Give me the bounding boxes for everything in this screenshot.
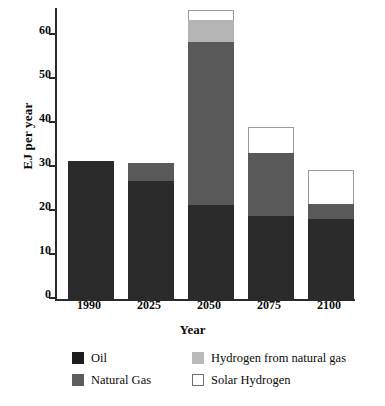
bar-segment-gas — [248, 153, 294, 216]
legend-label: Hydrogen from natural gas — [211, 352, 346, 365]
y-tick-label: 0 — [45, 288, 51, 300]
legend-label: Solar Hydrogen — [211, 374, 291, 387]
y-tick-label: 30 — [39, 156, 51, 168]
bar-segment-oil — [188, 205, 234, 299]
legend-swatch-h2gas — [192, 352, 204, 364]
y-tick-label: 60 — [39, 24, 51, 36]
legend-label: Oil — [91, 352, 107, 365]
legend-swatch-oil — [72, 352, 84, 364]
y-tick-label: 50 — [39, 68, 51, 80]
legend-item: Hydrogen from natural gas — [192, 352, 372, 365]
y-tick-label: 40 — [39, 112, 51, 124]
bar-segment-solar — [188, 10, 234, 20]
x-tick-label: 2050 — [180, 298, 238, 313]
plot-area: 0102030405060 — [55, 8, 355, 300]
bar-segment-h2gas — [188, 20, 234, 42]
y-tick-label: 20 — [39, 200, 51, 212]
bar-segment-gas — [188, 42, 234, 205]
legend-swatch-gas — [72, 374, 84, 386]
chart-legend: OilHydrogen from natural gasNatural GasS… — [72, 352, 372, 386]
x-tick-label: 2025 — [120, 298, 178, 313]
stacked-bar — [188, 10, 234, 299]
stacked-bar — [308, 170, 354, 299]
bar-segment-oil — [308, 219, 354, 299]
bar-series-container — [57, 8, 355, 299]
x-tick-label: 2075 — [240, 298, 298, 313]
stacked-bar — [68, 161, 114, 299]
stacked-bar — [248, 127, 294, 299]
legend-label: Natural Gas — [91, 374, 151, 387]
legend-item: Solar Hydrogen — [192, 374, 372, 387]
legend-swatch-solar — [192, 374, 204, 386]
stacked-bar — [128, 163, 174, 299]
bar-segment-oil — [68, 161, 114, 299]
y-tick-label: 10 — [39, 244, 51, 256]
stacked-bar-chart-figure: EJ per year 0102030405060 19902025205020… — [0, 0, 385, 406]
bar-segment-oil — [248, 216, 294, 299]
bar-segment-solar — [248, 127, 294, 153]
bar-segment-solar — [308, 170, 354, 204]
x-axis-title: Year — [0, 322, 385, 338]
bar-segment-gas — [128, 163, 174, 181]
x-tick-label: 2100 — [300, 298, 358, 313]
legend-item: Oil — [72, 352, 192, 365]
bar-segment-gas — [308, 204, 354, 219]
y-axis-title: EJ per year — [20, 76, 36, 196]
x-tick-label: 1990 — [60, 298, 118, 313]
bar-segment-oil — [128, 181, 174, 299]
legend-item: Natural Gas — [72, 374, 192, 387]
